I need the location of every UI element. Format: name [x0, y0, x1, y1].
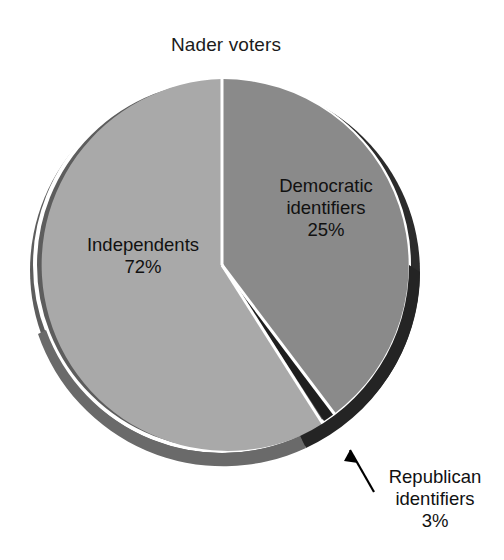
chart-title: Nader voters: [0, 34, 452, 56]
slice-label-republican: Republican identifiers 3%: [366, 466, 504, 532]
callout-arrow-head: [344, 450, 358, 463]
slice-label-democratic: Democratic identifiers 25%: [252, 175, 400, 241]
slice-label-republican-name-2: identifiers: [366, 488, 504, 510]
slice-label-republican-name-1: Republican: [366, 466, 504, 488]
slice-label-independents-name: Independents: [48, 234, 238, 256]
slice-label-democratic-value: 25%: [252, 219, 400, 241]
slice-label-independents-value: 72%: [48, 256, 238, 278]
slice-label-independents: Independents 72%: [48, 234, 238, 278]
slice-label-democratic-name-2: identifiers: [252, 197, 400, 219]
slice-label-democratic-name-1: Democratic: [252, 175, 400, 197]
slice-label-republican-value: 3%: [366, 510, 504, 532]
pie-chart-figure: Nader voters Independents 72% Democratic…: [0, 0, 504, 560]
